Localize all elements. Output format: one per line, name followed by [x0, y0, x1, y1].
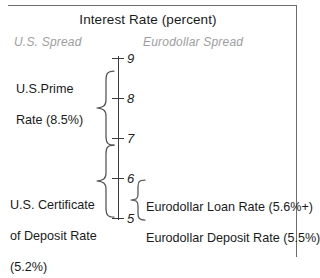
us-prime-rate-brace	[89, 70, 115, 146]
axis-tick-5	[112, 218, 124, 219]
us-spread-group-label: U.S. Spread	[14, 35, 82, 49]
axis-tick-label-9: 9	[127, 52, 134, 65]
us-cd-rate-line-1: U.S. Certificate	[10, 198, 97, 214]
us-cd-rate-line-3: (5.2%)	[10, 260, 97, 276]
eurodollar-deposit-rate-label: Eurodollar Deposit Rate (5.5%)	[146, 231, 320, 247]
us-cd-rate-line-2: of Deposit Rate	[10, 229, 97, 245]
page-title: Interest Rate (percent)	[0, 12, 296, 27]
frame-top-border	[8, 5, 297, 6]
us-prime-rate-annotation: U.S.Prime Rate (8.5%)	[16, 66, 83, 144]
us-prime-rate-line-1: U.S.Prime	[16, 82, 83, 98]
us-prime-rate-line-2: Rate (8.5%)	[16, 113, 83, 129]
eurodollar-spread-brace	[129, 179, 147, 221]
eurodollar-rates-annotation: Eurodollar Loan Rate (5.6%+) Eurodollar …	[146, 184, 320, 262]
axis-tick-label-7: 7	[127, 132, 134, 145]
axis-tick-label-8: 8	[127, 92, 134, 105]
eurodollar-loan-rate-label: Eurodollar Loan Rate (5.6%+)	[146, 200, 320, 216]
axis-tick-9	[112, 58, 124, 59]
us-certificate-of-deposit-rate-annotation: U.S. Certificate of Deposit Rate (5.2%)	[10, 182, 97, 278]
eurodollar-spread-group-label: Eurodollar Spread	[143, 35, 243, 49]
